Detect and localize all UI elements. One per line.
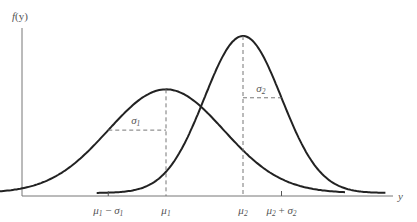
sigma1-annotation: σ1 xyxy=(131,114,140,128)
subscript-2: 2 xyxy=(244,209,248,218)
plus-sign: + xyxy=(276,204,288,216)
normal-distributions-diagram: f(y) y σ1 σ2 μ1 − σ1 μ1 μ2 μ2 + σ2 xyxy=(0,0,417,222)
x-tick-label-mu2: μ2 xyxy=(237,204,248,218)
subscript-2: 2 xyxy=(293,209,297,218)
sigma2-annotation: σ2 xyxy=(256,82,265,96)
curve-distribution-2 xyxy=(97,36,386,193)
y-axis-label-arg: (y) xyxy=(15,10,28,23)
y-axis-label: f(y) xyxy=(12,10,28,23)
curve-distribution-1 xyxy=(0,89,345,192)
subscript-1: 1 xyxy=(167,209,171,218)
x-axis-label: y xyxy=(397,190,403,202)
minus-sign: − xyxy=(102,204,114,216)
subscript-1: 1 xyxy=(120,209,124,218)
x-tick-label-mu1-minus-sigma1: μ1 − σ1 xyxy=(92,204,123,218)
subscript-1: 1 xyxy=(137,119,141,128)
x-tick-label-mu2-plus-sigma2: μ2 + σ2 xyxy=(265,204,296,218)
subscript-2: 2 xyxy=(262,87,266,96)
x-tick-label-mu1: μ1 xyxy=(160,204,170,218)
